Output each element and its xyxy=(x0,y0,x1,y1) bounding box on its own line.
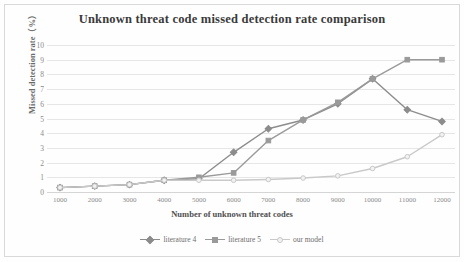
plot-area xyxy=(47,45,455,192)
data-point-marker xyxy=(439,118,446,125)
x-tick-label: 1000 xyxy=(53,196,67,204)
legend-label: literature 5 xyxy=(228,235,261,244)
series-line xyxy=(60,60,442,188)
y-tick-label: 4 xyxy=(40,129,44,138)
gridline-0 xyxy=(47,192,455,193)
series-literature-4 xyxy=(57,76,446,191)
y-tick-label: 6 xyxy=(40,99,44,108)
x-tick-label: 7000 xyxy=(261,196,275,204)
chart-figure: Unknown threat code missed detection rat… xyxy=(0,0,464,262)
x-axis-title: Number of unknown threat codes xyxy=(0,209,464,219)
y-tick-label: 3 xyxy=(40,143,44,152)
series-line xyxy=(60,135,442,188)
x-tick-label: 9000 xyxy=(331,196,345,204)
data-point-marker xyxy=(127,182,132,187)
x-tick-label: 11000 xyxy=(399,196,416,204)
y-tick-label: 8 xyxy=(40,70,44,79)
legend-label: our model xyxy=(293,235,324,244)
x-axis-tick-labels: 1000200030004000500060007000800090001000… xyxy=(47,196,455,208)
legend-marker-icon xyxy=(270,236,290,243)
x-tick-label: 8000 xyxy=(296,196,310,204)
legend-label: literature 4 xyxy=(163,235,196,244)
series-lines xyxy=(47,45,455,192)
data-point-marker xyxy=(301,118,306,123)
legend-item-our-model[interactable]: our model xyxy=(270,235,324,244)
y-tick-label: 1 xyxy=(40,173,44,182)
data-point-marker xyxy=(370,166,375,171)
data-point-marker xyxy=(231,171,236,176)
legend-marker-icon xyxy=(140,236,160,243)
y-tick-label: 2 xyxy=(40,158,44,167)
data-point-marker xyxy=(58,185,63,190)
series-line xyxy=(60,79,442,188)
data-point-marker xyxy=(92,184,97,189)
data-point-marker xyxy=(440,132,445,137)
data-point-marker xyxy=(370,77,375,82)
data-point-marker xyxy=(336,174,341,179)
data-point-marker xyxy=(301,176,306,181)
data-point-marker xyxy=(336,100,341,105)
x-tick-label: 3000 xyxy=(122,196,136,204)
legend-item-literature-5[interactable]: literature 5 xyxy=(205,235,261,244)
x-tick-label: 12000 xyxy=(433,196,451,204)
x-tick-label: 10000 xyxy=(364,196,382,204)
y-tick-label: 9 xyxy=(40,55,44,64)
chart-legend: literature 4literature 5our model xyxy=(0,235,464,244)
y-tick-label: 0 xyxy=(40,188,44,197)
x-tick-label: 6000 xyxy=(227,196,241,204)
series-literature-5 xyxy=(58,57,445,189)
data-point-marker xyxy=(162,178,167,183)
data-point-marker xyxy=(405,154,410,159)
legend-item-literature-4[interactable]: literature 4 xyxy=(140,235,196,244)
x-tick-label: 2000 xyxy=(88,196,102,204)
y-axis-tick-labels: 109876543210 xyxy=(26,45,44,192)
data-point-marker xyxy=(231,178,236,183)
x-tick-label: 5000 xyxy=(192,196,206,204)
data-point-marker xyxy=(197,178,202,183)
data-point-marker xyxy=(266,138,271,143)
data-point-marker xyxy=(405,57,410,62)
y-tick-label: 7 xyxy=(40,85,44,94)
chart-title: Unknown threat code missed detection rat… xyxy=(0,12,464,27)
y-tick-label: 10 xyxy=(37,41,45,50)
x-tick-label: 4000 xyxy=(157,196,171,204)
data-point-marker xyxy=(266,177,271,182)
legend-marker-icon xyxy=(205,236,225,243)
data-point-marker xyxy=(440,57,445,62)
y-tick-label: 5 xyxy=(40,114,44,123)
